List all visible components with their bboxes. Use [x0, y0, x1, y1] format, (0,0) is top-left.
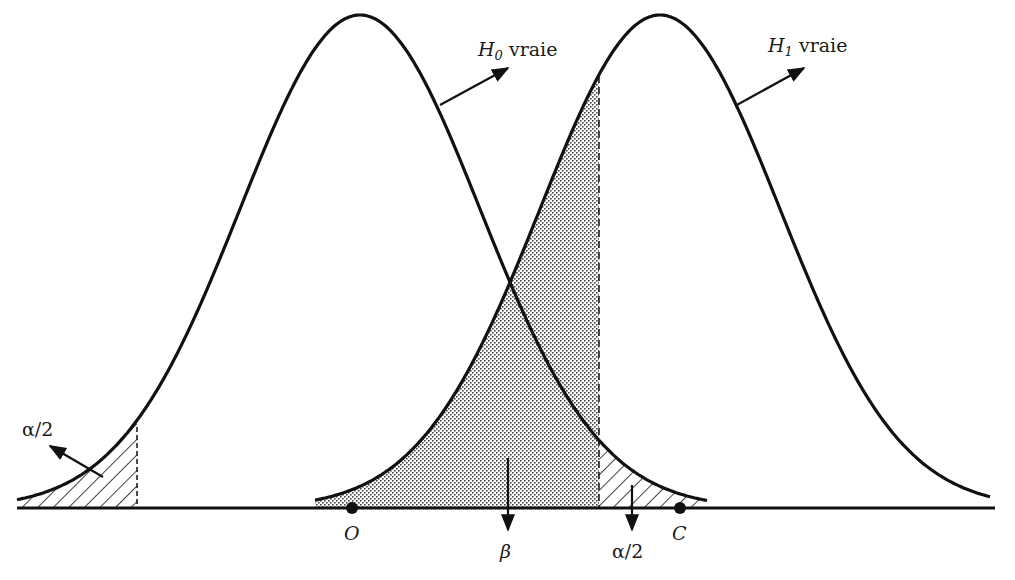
h0-label-main: H	[478, 38, 495, 60]
alpha-left-arrow	[50, 446, 103, 477]
h1-label-sub: 1	[785, 44, 793, 59]
h1-label-text: vraie	[799, 34, 847, 56]
h1-label-main: H	[768, 34, 785, 56]
h1-pointer-arrow	[735, 68, 804, 106]
h1-label: H1 vraie	[768, 34, 847, 56]
hypothesis-test-diagram: H0 vraie H1 vraie α/2 O β α/2 C	[0, 0, 1015, 580]
h0-pointer-arrow	[440, 68, 508, 105]
beta-label: β	[500, 540, 511, 562]
point-c-label: C	[672, 522, 687, 544]
point-o-label: O	[344, 522, 360, 544]
point-c-marker	[674, 502, 686, 514]
h0-label-sub: 0	[495, 48, 503, 63]
point-o-marker	[346, 502, 358, 514]
h0-curve	[17, 15, 707, 501]
alpha-left-label: α/2	[22, 418, 53, 440]
alpha-right-label: α/2	[612, 540, 643, 562]
beta-region	[315, 75, 599, 508]
diagram-canvas	[0, 0, 1015, 580]
h0-label: H0 vraie	[478, 38, 557, 60]
h1-curve	[315, 15, 990, 500]
h0-label-text: vraie	[509, 38, 557, 60]
